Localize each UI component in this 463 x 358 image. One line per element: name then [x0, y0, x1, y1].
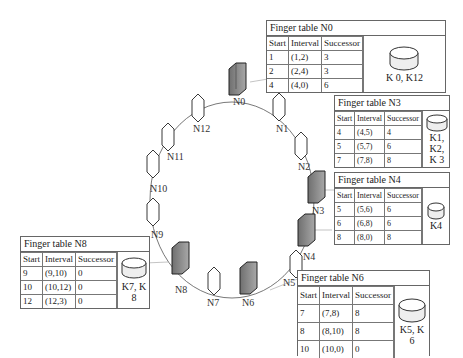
cell-start: 7: [298, 305, 320, 323]
node-label-n1: N1: [276, 124, 288, 134]
cell-start: 2: [267, 65, 289, 79]
header-start: Start: [21, 253, 43, 267]
stored-keys: K 0, K12: [386, 72, 423, 83]
table-row: 5(5,6)6: [335, 203, 421, 217]
header-start: Start: [335, 189, 355, 203]
node-label-n6: N6: [242, 298, 254, 308]
header-interval: Interval: [43, 253, 76, 267]
finger-table-n6: Finger table N6 StartIntervalSuccessor 7…: [297, 270, 430, 356]
virtual-node-icon-n9: [147, 198, 159, 226]
table-row: 12(12,3)0: [21, 295, 116, 309]
header-start: Start: [298, 287, 320, 305]
cell-start: 10: [21, 281, 43, 295]
node-label-n5: N5: [283, 278, 295, 288]
finger-table-title: Finger table N6: [298, 271, 429, 286]
table-row: 9(9,10)0: [21, 267, 116, 281]
table-header-row: StartIntervalSuccessor: [298, 287, 393, 305]
header-start: Start: [267, 37, 289, 51]
table-row: 7(7,8)8: [335, 154, 421, 168]
node-label-n4: N4: [303, 252, 315, 262]
cell-start: 8: [298, 323, 320, 341]
finger-table-n0: Finger table N0 StartIntervalSuccessor 1…: [266, 20, 446, 93]
database-icon: [120, 257, 148, 281]
table-row: 1(1,2)3: [267, 51, 362, 65]
node-label-n0: N0: [233, 97, 245, 107]
server-icon-n6: [240, 262, 257, 294]
cell-successor: 0: [75, 281, 116, 295]
header-successor: Successor: [321, 37, 362, 51]
cell-interval: (6,8): [355, 217, 385, 231]
header-interval: Interval: [355, 189, 385, 203]
stored-keys: K4: [430, 220, 442, 231]
header-successor: Successor: [384, 112, 421, 126]
cell-start: 8: [335, 231, 355, 245]
cell-interval: (8,10): [320, 323, 353, 341]
cell-start: 7: [335, 154, 355, 168]
database-icon: [397, 298, 427, 324]
table-header-row: StartIntervalSuccessor: [335, 189, 421, 203]
table-row: 6(6,8)6: [335, 217, 421, 231]
table-row: 8(8,10)8: [298, 323, 393, 341]
cell-interval: (9,10): [43, 267, 76, 281]
stored-keys: K1, K2, K 3: [425, 132, 449, 165]
table-row: 10(10,12)0: [21, 281, 116, 295]
cell-successor: 0: [352, 341, 393, 358]
cell-start: 6: [335, 217, 355, 231]
finger-table-title: Finger table N8: [21, 237, 149, 252]
cell-interval: (12,3): [43, 295, 76, 309]
cell-start: 12: [21, 295, 43, 309]
node-label-n7: N7: [207, 298, 219, 308]
cell-successor: 0: [75, 267, 116, 281]
cell-interval: (1,2): [289, 51, 322, 65]
cell-successor: 6: [321, 79, 362, 93]
header-interval: Interval: [289, 37, 322, 51]
node-label-n2: N2: [298, 162, 310, 172]
cell-successor: 6: [384, 140, 421, 154]
stored-keys: K7, K 8: [120, 281, 148, 303]
key-storage: K5, K 6: [394, 286, 429, 358]
cell-successor: 6: [384, 217, 421, 231]
cell-interval: (7,8): [320, 305, 353, 323]
database-icon: [388, 46, 420, 72]
cell-successor: 4: [384, 126, 421, 140]
cell-interval: (8,0): [355, 231, 385, 245]
finger-table-title: Finger table N4: [335, 173, 449, 188]
virtual-node-icon-n2: [295, 132, 307, 160]
cell-start: 1: [267, 51, 289, 65]
database-icon: [425, 114, 449, 132]
key-storage: K4: [422, 188, 449, 244]
finger-table-title: Finger table N3: [335, 96, 449, 111]
database-icon: [426, 202, 446, 220]
node-label-n3: N3: [312, 206, 324, 216]
cell-interval: (5,7): [355, 140, 385, 154]
header-start: Start: [335, 112, 355, 126]
header-successor: Successor: [384, 189, 421, 203]
cell-start: 5: [335, 203, 355, 217]
cell-interval: (7,8): [355, 154, 385, 168]
header-successor: Successor: [75, 253, 116, 267]
cell-interval: (2,4): [289, 65, 322, 79]
header-interval: Interval: [320, 287, 353, 305]
cell-interval: (10,0): [320, 341, 353, 358]
table-row: 10(10,0)0: [298, 341, 393, 358]
cell-successor: 8: [384, 231, 421, 245]
node-label-n11: N11: [167, 152, 184, 162]
node-label-n8: N8: [175, 285, 187, 295]
finger-table-n3: Finger table N3 StartIntervalSuccessor 4…: [334, 95, 450, 168]
virtual-node-icon-n11: [162, 123, 174, 151]
virtual-node-icon-n1: [273, 93, 285, 121]
node-label-n10: N10: [150, 184, 167, 194]
server-icon-n8: [172, 242, 189, 274]
cell-start: 10: [298, 341, 320, 358]
cell-successor: 3: [321, 65, 362, 79]
table-row: 7(7,8)8: [298, 305, 393, 323]
node-label-n9: N9: [151, 230, 163, 240]
cell-successor: 3: [321, 51, 362, 65]
finger-table-n8: Finger table N8 StartIntervalSuccessor 9…: [20, 236, 150, 309]
cell-start: 5: [335, 140, 355, 154]
table-header-row: StartIntervalSuccessor: [267, 37, 362, 51]
cell-successor: 6: [384, 203, 421, 217]
server-icon-n4: [298, 214, 315, 246]
cell-interval: (4,5): [355, 126, 385, 140]
cell-successor: 0: [75, 295, 116, 309]
